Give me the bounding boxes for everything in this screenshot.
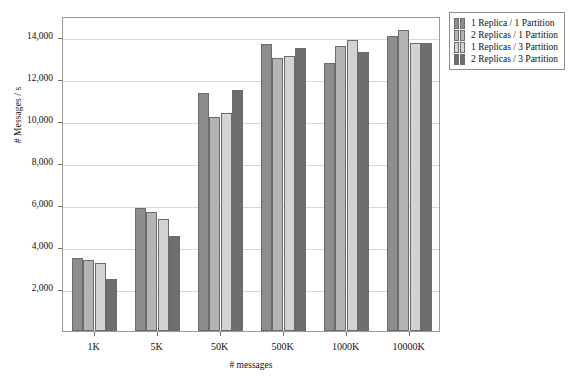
- bar: [209, 117, 220, 331]
- bar: [421, 43, 432, 331]
- bar: [106, 279, 117, 332]
- plot-area: [62, 17, 440, 332]
- x-axis-tick-label: 50K: [188, 341, 251, 352]
- x-axis-tick-mark: [346, 332, 347, 336]
- y-axis-tick-label: 8,000: [0, 157, 53, 167]
- bar: [387, 36, 398, 331]
- y-axis-tick-label: 6,000: [0, 199, 53, 209]
- x-axis-tick-label: 1000K: [314, 341, 377, 352]
- bar: [410, 43, 421, 331]
- bar: [135, 208, 146, 331]
- legend-item-label: 1 Replicas / 3 Partition: [471, 42, 558, 52]
- legend-item-label: 1 Replica / 1 Partition: [471, 18, 554, 28]
- bar: [83, 260, 94, 331]
- legend-item: 1 Replicas / 3 Partition: [454, 41, 558, 53]
- legend-item: 1 Replica / 1 Partition: [454, 17, 558, 29]
- legend-swatch-icon: [454, 30, 467, 41]
- legend-swatch-icon: [454, 54, 467, 65]
- bar: [398, 30, 409, 331]
- x-axis-tick-label: 500K: [251, 341, 314, 352]
- x-axis-tick-mark: [94, 332, 95, 336]
- bar: [221, 113, 232, 331]
- bar: [158, 219, 169, 331]
- bar-chart-figure: # Messages / s 2,0004,0006,0008,00010,00…: [0, 0, 588, 386]
- legend-item-label: 2 Replicas / 3 Partition: [471, 54, 558, 64]
- bar: [272, 58, 283, 331]
- y-axis-tick-label: 4,000: [0, 241, 53, 251]
- bar: [324, 63, 335, 331]
- y-axis-tick-label: 12,000: [0, 73, 53, 83]
- legend-swatch: [460, 54, 465, 65]
- chart-legend: 1 Replica / 1 Partition2 Replicas / 1 Pa…: [449, 12, 565, 70]
- legend-swatch: [454, 18, 459, 29]
- x-axis-tick-label: 5K: [125, 341, 188, 352]
- x-axis-tick-mark: [220, 332, 221, 336]
- x-axis-tick-mark: [409, 332, 410, 336]
- bar-series-layer: [63, 18, 439, 331]
- bar: [72, 258, 83, 332]
- bar: [358, 52, 369, 331]
- x-axis-tick-mark: [157, 332, 158, 336]
- x-axis-tick-label: 10000K: [377, 341, 440, 352]
- legend-swatch: [460, 30, 465, 41]
- legend-item: 2 Replicas / 3 Partition: [454, 53, 558, 65]
- legend-item: 2 Replicas / 1 Partition: [454, 29, 558, 41]
- legend-swatch: [460, 18, 465, 29]
- x-axis-title: # messages: [62, 360, 440, 370]
- legend-swatch: [454, 30, 459, 41]
- legend-swatch: [454, 42, 459, 53]
- y-axis-tick-label: 2,000: [0, 283, 53, 293]
- bar: [169, 236, 180, 331]
- legend-swatch-icon: [454, 18, 467, 29]
- bar: [284, 56, 295, 331]
- bar: [335, 46, 346, 331]
- legend-swatch: [454, 54, 459, 65]
- x-axis-tick-label: 1K: [62, 341, 125, 352]
- legend-swatch-icon: [454, 42, 467, 53]
- y-axis-tick-label: 14,000: [0, 31, 53, 41]
- legend-item-label: 2 Replicas / 1 Partition: [471, 30, 558, 40]
- bar: [198, 93, 209, 331]
- bar: [261, 44, 272, 331]
- y-axis-tick-label: 10,000: [0, 115, 53, 125]
- bar: [295, 48, 306, 332]
- bar: [95, 263, 106, 331]
- bar: [347, 40, 358, 331]
- bar: [146, 212, 157, 331]
- x-axis-tick-mark: [283, 332, 284, 336]
- bar: [232, 90, 243, 332]
- legend-swatch: [460, 42, 465, 53]
